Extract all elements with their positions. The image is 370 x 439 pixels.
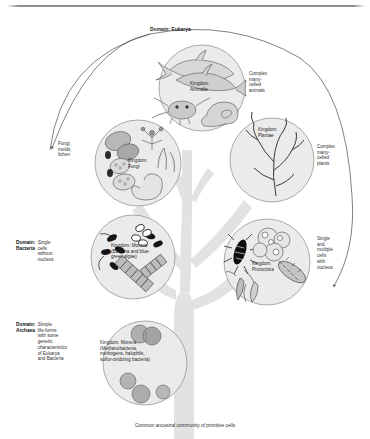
kingdom-label-monera-archaea: Kingdom: Monera (Methanobacteria, methog…: [100, 340, 150, 362]
tree-diagram-svg: [0, 0, 370, 439]
kingdom-label-animalia: Kingdom: Animalia: [190, 81, 209, 92]
domain-bacteria-name: Domain: Bacteria: [16, 240, 35, 252]
domain-bacteria-desc: Single cells without nucleus: [38, 240, 54, 263]
domain-archaea: Domain: Archaea Simple life-forms with s…: [16, 322, 67, 362]
kingdom-label-protoctista: Kingdom: Protoctista: [252, 261, 274, 272]
note-fungi: Fungi, molds, lichen: [58, 141, 72, 158]
domain-archaea-name: Domain: Archaea: [16, 322, 35, 334]
kingdom-circle-monera-archaea: [103, 321, 187, 405]
phylogenetic-tree-figure: Domain: Eukarya Kingdom: Animalia Comple…: [0, 0, 370, 439]
domain-bacteria: Domain: Bacteria Single cells without nu…: [16, 240, 54, 263]
eukarya-domain-title: Domain: Eukarya: [150, 26, 191, 32]
note-animalia: Complex many- celled animals: [249, 71, 267, 94]
note-plantae: Complex many- celled plants: [317, 144, 335, 167]
kingdom-label-plantae: Kingdom: Plantae: [258, 127, 277, 138]
kingdom-circle-plantae: [230, 112, 314, 202]
domain-archaea-desc: Simple life-forms with some genetic char…: [38, 322, 67, 362]
figure-caption: Common ancestral community of primitive …: [0, 423, 370, 428]
kingdom-label-fungi: Kingdom: Fungi: [128, 158, 147, 169]
kingdom-label-monera-bacteria: Kingdom: Monera (Bacteria and blue- gree…: [111, 243, 150, 260]
note-protoctista: Single and multiple cells with nucleus: [317, 236, 333, 270]
